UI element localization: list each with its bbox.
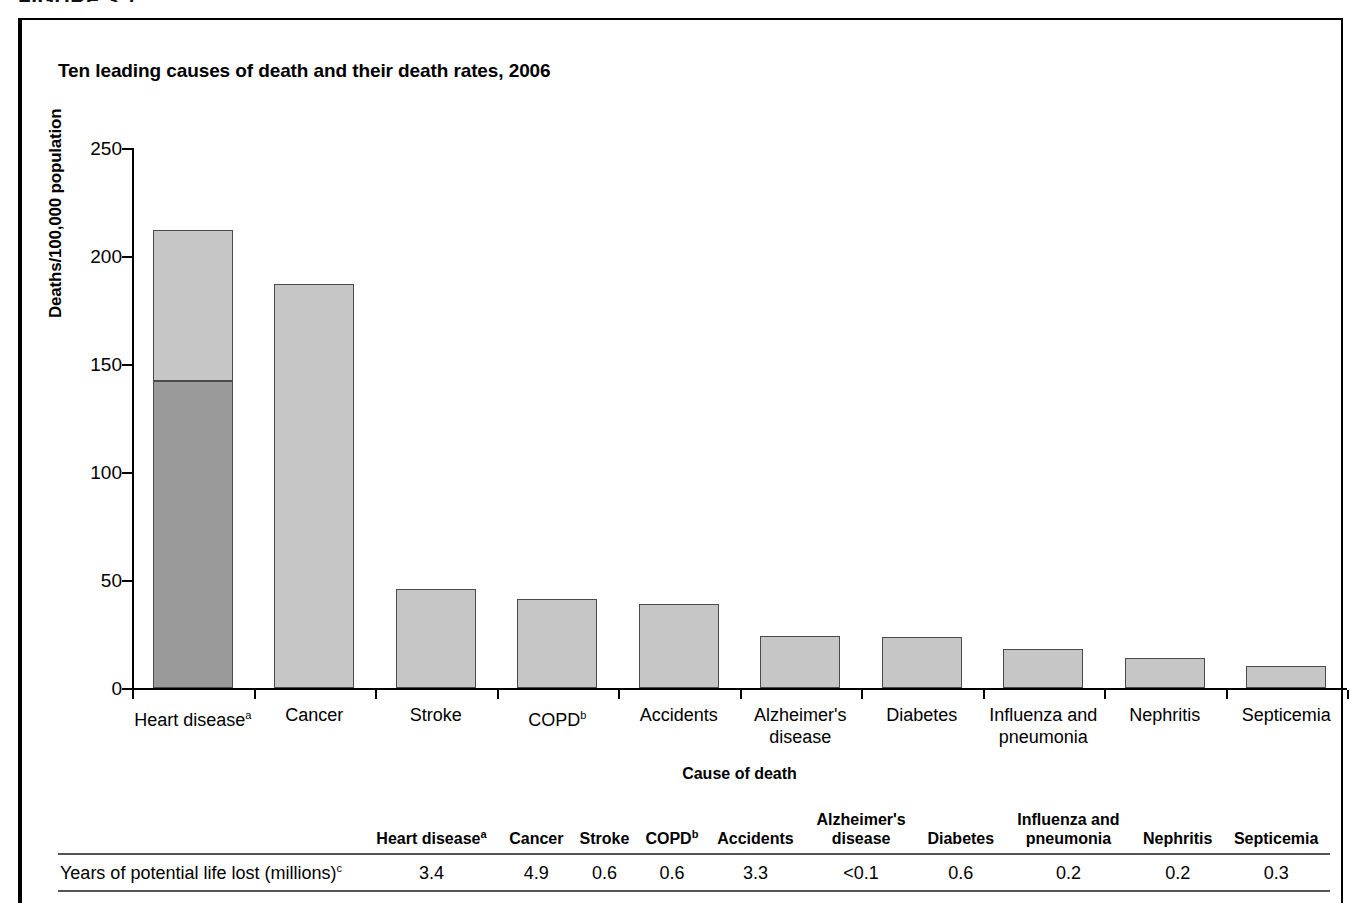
bar [639, 604, 719, 688]
x-category-label: Heart diseasea [132, 704, 254, 731]
y-tick-label: 100 [62, 463, 122, 482]
y-axis-line [132, 148, 134, 688]
bar [153, 230, 233, 688]
bar [517, 599, 597, 688]
table-cell: 0.3 [1222, 854, 1330, 891]
bar [1003, 649, 1083, 688]
table-corner-cell [58, 810, 362, 854]
bar [760, 636, 840, 688]
table-cell: <0.1 [804, 854, 917, 891]
table-column-header: Influenza andpneumonia [1004, 810, 1133, 854]
bar-segment-upper [153, 230, 233, 381]
table-column-header: Accidents [707, 810, 805, 854]
bar-fill [639, 604, 719, 688]
bar-fill [882, 637, 962, 688]
bar-fill [274, 284, 354, 688]
figure-frame: Ten leading causes of death and their de… [18, 18, 1343, 903]
bar [882, 637, 962, 688]
x-tick [1347, 690, 1349, 699]
x-category-label: Alzheimer'sdisease [740, 704, 862, 748]
table-column-header: Stroke [572, 810, 637, 854]
x-tick [1226, 690, 1228, 699]
bar-segment-lower [153, 381, 233, 688]
table-cell: 4.9 [501, 854, 572, 891]
x-category-label: Cancer [254, 704, 376, 726]
table-column-header: Diabetes [918, 810, 1004, 854]
x-tick [740, 690, 742, 699]
x-axis-title: Cause of death [132, 765, 1347, 783]
x-tick [983, 690, 985, 699]
y-tick [122, 364, 132, 366]
x-category-label: Diabetes [861, 704, 983, 726]
table-header-row: Heart diseaseaCancerStrokeCOPDbAccidents… [58, 810, 1330, 854]
table-column-header: Alzheimer'sdisease [804, 810, 917, 854]
table-row: Years of potential life lost (millions)c… [58, 854, 1330, 891]
bar [274, 284, 354, 688]
bar-fill [517, 599, 597, 688]
x-category-label: Accidents [618, 704, 740, 726]
table-cell: 3.4 [362, 854, 501, 891]
bar-fill [396, 589, 476, 688]
data-table: Heart diseaseaCancerStrokeCOPDbAccidents… [58, 810, 1330, 892]
x-tick [861, 690, 863, 699]
y-tick-label: 150 [62, 355, 122, 374]
x-tick [1104, 690, 1106, 699]
x-tick [375, 690, 377, 699]
x-tick [497, 690, 499, 699]
bar [1125, 658, 1205, 688]
bar-fill [1003, 649, 1083, 688]
table-cell: 0.2 [1133, 854, 1222, 891]
table-cell: 0.6 [572, 854, 637, 891]
table-cell: 0.6 [637, 854, 706, 891]
y-tick [122, 256, 132, 258]
x-tick [132, 690, 134, 699]
table-column-header: Septicemia [1222, 810, 1330, 854]
table-row-label: Years of potential life lost (millions)c [58, 854, 362, 891]
x-tick [618, 690, 620, 699]
y-tick-label: 250 [62, 139, 122, 158]
y-tick [122, 580, 132, 582]
figure-number-label: FIGURE 3.1 [18, 0, 137, 2]
x-category-label: Septicemia [1226, 704, 1348, 726]
x-category-label: Stroke [375, 704, 497, 726]
y-tick [122, 148, 132, 150]
bar-fill [1125, 658, 1205, 688]
table-column-header: Nephritis [1133, 810, 1222, 854]
x-category-label: Influenza andpneumonia [983, 704, 1105, 748]
table-cell: 0.6 [918, 854, 1004, 891]
bar [396, 589, 476, 688]
y-tick-label: 200 [62, 247, 122, 266]
bar-fill [1246, 666, 1326, 688]
x-category-label: Nephritis [1104, 704, 1226, 726]
x-category-label: COPDb [497, 704, 619, 731]
y-tick [122, 472, 132, 474]
x-tick [254, 690, 256, 699]
y-tick-label: 0 [62, 679, 122, 698]
table-column-header: Cancer [501, 810, 572, 854]
bar [1246, 666, 1326, 688]
figure-title: Ten leading causes of death and their de… [58, 60, 551, 82]
bar-fill [760, 636, 840, 688]
bar-chart-plot-area: Deaths/100,000 population 05010015020025… [132, 148, 1347, 690]
table-column-header: COPDb [637, 810, 706, 854]
table-column-header: Heart diseasea [362, 810, 501, 854]
y-tick [122, 688, 132, 690]
table-cell: 0.2 [1004, 854, 1133, 891]
table-cell: 3.3 [707, 854, 805, 891]
y-tick-label: 50 [62, 571, 122, 590]
